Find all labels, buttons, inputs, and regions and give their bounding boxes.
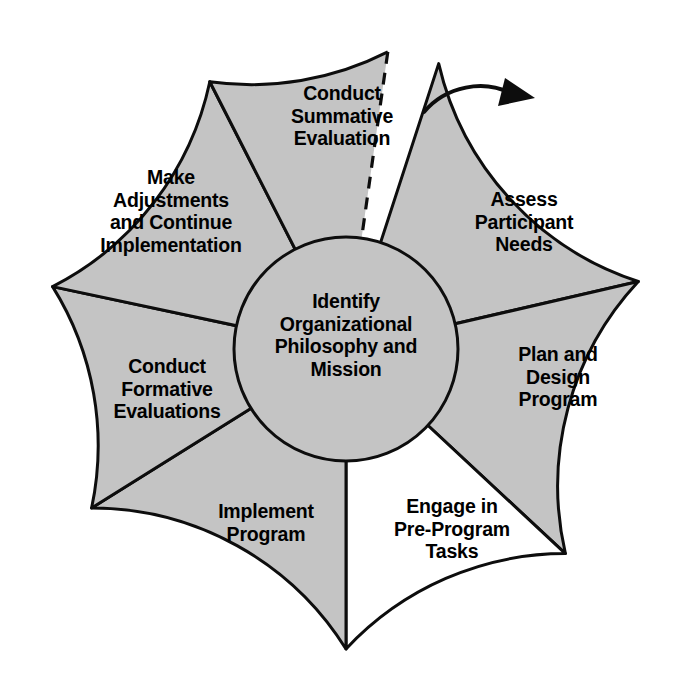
hub-circle[interactable] bbox=[234, 237, 458, 461]
program-planning-cycle-diagram: Conduct Summative Evaluation Make Adjust… bbox=[0, 0, 691, 689]
cycle-wheel-graphic bbox=[0, 0, 691, 689]
cycle-continuation-arrow-head bbox=[498, 78, 535, 106]
